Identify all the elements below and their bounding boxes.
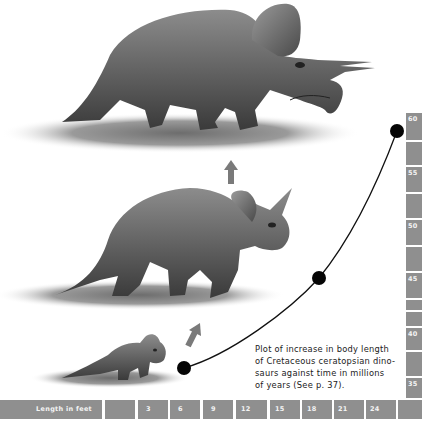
x-axis-tick-cell: 9 <box>203 400 233 419</box>
x-axis-tick-cell <box>105 400 135 419</box>
x-axis-tick-cell: 12 <box>236 400 267 419</box>
x-axis-tick-cell: 21 <box>334 400 364 419</box>
caption-line: Plot of increase in body length <box>255 343 398 355</box>
caption-line: of Cretaceous ceratopsian dino- <box>255 355 398 367</box>
y-axis-tick-cell: 45 <box>406 273 422 298</box>
y-axis-tick-cell: 35 <box>406 378 422 398</box>
x-axis-label: Length in feet <box>36 400 92 419</box>
caption-line: of years (See p. 37). <box>255 379 398 391</box>
arrow-up-right-icon <box>188 323 201 346</box>
x-axis-label-cell: Length in feet <box>0 400 102 419</box>
data-point-small <box>177 361 191 375</box>
x-axis-tick-cell: 6 <box>170 400 200 419</box>
data-point-large <box>390 124 404 138</box>
x-axis-tick-cell: 3 <box>138 400 168 419</box>
chart-caption: Plot of increase in body length of Creta… <box>255 343 398 391</box>
grass-patch-top <box>0 113 360 153</box>
illustration-page: Length in feet 3 6 9 12 15 18 21 24 <box>0 0 422 427</box>
x-axis-tick-cell: 18 <box>302 400 332 419</box>
y-axis-tick-cell <box>406 300 422 310</box>
y-axis-tick-cell <box>406 247 422 271</box>
arrow-up-icon <box>224 160 238 184</box>
data-point-medium <box>312 271 326 285</box>
x-axis-tick-cell <box>398 400 422 419</box>
grass-patch-middle <box>0 280 285 310</box>
y-axis-tick-cell <box>406 194 422 218</box>
y-axis-tick-cell <box>406 142 422 165</box>
y-axis-tick-cell: 50 <box>406 220 422 245</box>
caption-line: saurs against time in millions <box>255 367 398 379</box>
centrosaurus-icon <box>55 188 292 298</box>
triceratops-icon <box>62 4 375 130</box>
y-axis-tick-cell: 55 <box>406 167 422 192</box>
y-axis-tick-cell: 40 <box>406 328 422 350</box>
y-axis-tick-cell: 60 <box>406 113 422 140</box>
y-axis-tick-cell <box>406 312 422 326</box>
x-axis-tick-cell: 24 <box>366 400 396 419</box>
y-axis-tick-cell <box>406 352 422 376</box>
x-axis-tick-cell: 15 <box>270 400 300 419</box>
